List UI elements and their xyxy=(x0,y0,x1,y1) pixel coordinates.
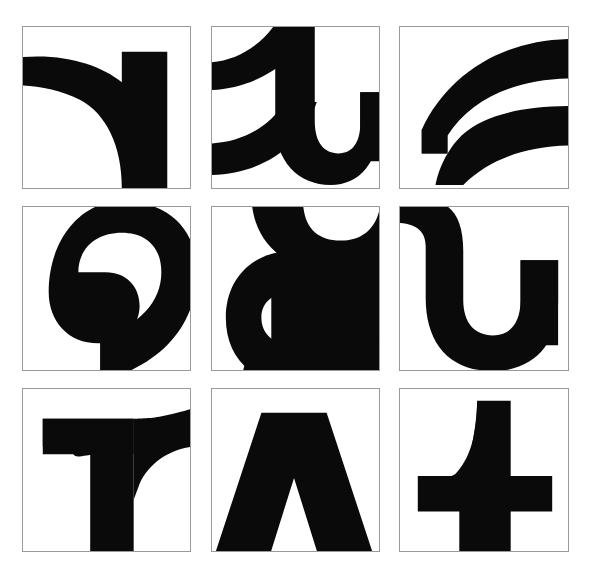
panel-6[interactable] xyxy=(399,206,569,371)
panel-7-artwork xyxy=(23,389,190,551)
panel-3-artwork xyxy=(400,27,568,188)
panel-8-artwork xyxy=(212,389,379,551)
panel-1[interactable] xyxy=(22,26,191,189)
panel-2-artwork xyxy=(212,27,379,188)
panel-1-artwork xyxy=(23,27,190,188)
panel-8[interactable] xyxy=(211,388,380,552)
panel-9[interactable] xyxy=(399,388,569,552)
panel-4[interactable] xyxy=(22,206,191,371)
panel-2[interactable] xyxy=(211,26,380,189)
panel-4-artwork xyxy=(23,207,190,370)
panel-6-artwork xyxy=(400,207,568,370)
panel-5[interactable] xyxy=(211,206,380,371)
letterform-grid xyxy=(0,0,589,567)
panel-5-artwork xyxy=(212,207,379,370)
panel-9-artwork xyxy=(400,389,568,551)
panel-3[interactable] xyxy=(399,26,569,189)
panel-7[interactable] xyxy=(22,388,191,552)
